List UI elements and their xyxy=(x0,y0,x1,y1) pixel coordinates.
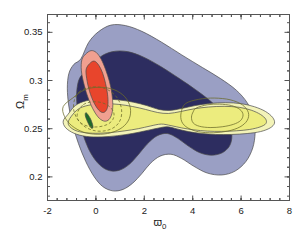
x-axis-label-subscript: 0 xyxy=(162,222,166,231)
y-axis-label-subscript: m xyxy=(21,94,30,101)
x-tick-label: 8 xyxy=(275,205,304,216)
y-tick-label: 0.25 xyxy=(10,123,43,134)
x-axis-label: ϖ0 xyxy=(130,216,190,231)
x-axis-label-base: ϖ xyxy=(154,216,163,228)
y-tick-label: 0.3 xyxy=(10,75,43,86)
y-tick-label: 0.35 xyxy=(10,26,43,37)
y-axis-label: Ωm xyxy=(14,82,29,122)
x-tick-label: 0 xyxy=(81,205,111,216)
y-axis-label-base: Ω xyxy=(14,101,26,109)
confidence-contour-plot xyxy=(0,0,303,237)
x-tick-label: 6 xyxy=(226,205,256,216)
x-tick-label: 4 xyxy=(178,205,208,216)
y-tick-label: 0.2 xyxy=(10,171,43,182)
x-tick-label: -2 xyxy=(33,205,63,216)
x-tick-label: 2 xyxy=(129,205,159,216)
